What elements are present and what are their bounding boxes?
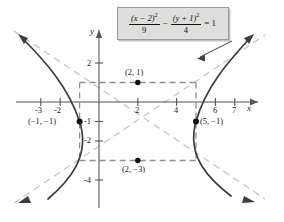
x-tick-label--3: -3 <box>35 106 42 115</box>
x-tick-label-7: 7 <box>232 106 236 115</box>
equation-pointer <box>197 41 232 62</box>
x-axis-arrow <box>250 99 258 106</box>
equation-first-denominator: 9 <box>140 26 148 35</box>
equation-first-numerator: (x − 2)2 <box>129 12 160 23</box>
y-tick-label--4: -4 <box>84 176 91 185</box>
equation-first-numerator-text: (x − 2) <box>131 13 155 23</box>
y-axis-label: y <box>90 27 94 36</box>
point-2-1 <box>135 80 140 85</box>
y-tick-label--1: -1 <box>84 117 91 126</box>
x-axis-label: x <box>247 104 251 113</box>
equation-callout-box: (x − 2)2 9 − (y + 1)2 4 = 1 <box>117 7 229 40</box>
point-label-5-neg1: (5, −1) <box>200 117 223 126</box>
right-branch-lower-arrow <box>242 196 255 203</box>
point-label-neg1-neg1: (−1, −1) <box>28 117 56 126</box>
point-5-neg1 <box>193 119 199 125</box>
equation-second-numerator-exponent: 2 <box>196 12 199 18</box>
equation-second-fraction: (y + 1)2 4 <box>171 12 202 35</box>
equation-second-numerator-text: (y + 1) <box>173 13 197 23</box>
y-tick-label--2: -2 <box>84 136 91 145</box>
point-label-2-1: (2, 1) <box>125 68 143 77</box>
plotted-points <box>77 80 199 163</box>
point-label-2-neg3: (2, −3) <box>122 165 145 174</box>
equation-first-fraction: (x − 2)2 9 <box>129 12 160 35</box>
equation-first-numerator-exponent: 2 <box>155 12 158 18</box>
x-tick-label-6: 6 <box>213 106 217 115</box>
point-2-neg3 <box>135 158 140 163</box>
equation-second-numerator: (y + 1)2 <box>171 12 202 23</box>
equation-expression: (x − 2)2 9 − (y + 1)2 4 = 1 <box>128 12 218 35</box>
y-axis-arrow <box>96 30 102 38</box>
equation-operator: − <box>163 18 168 28</box>
x-tick-label-4: 4 <box>174 106 178 115</box>
equation-equals: = 1 <box>204 18 216 28</box>
equation-second-denominator: 4 <box>182 26 190 35</box>
x-tick-label--2: -2 <box>54 106 61 115</box>
y-tick-label-2: 2 <box>87 59 91 68</box>
x-tick-label-2: 2 <box>135 106 139 115</box>
point-neg1-neg1 <box>77 119 83 125</box>
equation-pointer-line <box>200 41 232 57</box>
